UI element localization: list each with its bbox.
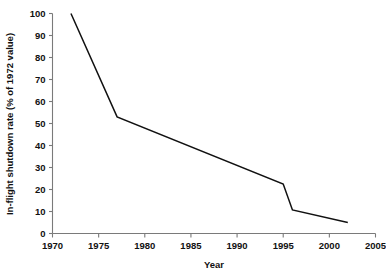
y-tick-label: 40 <box>35 140 46 151</box>
y-tick-label: 90 <box>35 30 46 41</box>
y-tick-label: 0 <box>40 228 45 239</box>
y-axis-tick-labels: 0102030405060708090100 <box>30 8 46 239</box>
x-tick-label: 1980 <box>134 240 155 251</box>
y-tick-label: 100 <box>30 8 46 19</box>
x-tick-label: 1970 <box>42 240 63 251</box>
x-axis-tick-marks <box>53 234 376 238</box>
y-axis-title: In-flight shutdown rate (% of 1972 value… <box>4 33 15 215</box>
line-chart-svg: 0102030405060708090100 In-flight shutdow… <box>0 0 386 277</box>
x-tick-label: 1985 <box>180 240 202 251</box>
y-tick-label: 80 <box>35 52 46 63</box>
y-tick-label: 20 <box>35 184 46 195</box>
y-axis-group: 0102030405060708090100 In-flight shutdow… <box>4 8 53 239</box>
x-axis-title: Year <box>204 259 224 270</box>
x-tick-label: 1995 <box>273 240 295 251</box>
y-tick-label: 60 <box>35 96 46 107</box>
data-series-group <box>71 14 348 223</box>
series-line-in-flight-shutdown-rate <box>71 14 348 223</box>
x-tick-label: 1975 <box>88 240 110 251</box>
y-tick-label: 70 <box>35 74 46 85</box>
x-tick-label: 1990 <box>227 240 248 251</box>
y-tick-label: 50 <box>35 118 46 129</box>
chart-figure: 0102030405060708090100 In-flight shutdow… <box>0 0 386 277</box>
y-tick-label: 10 <box>35 206 46 217</box>
x-tick-label: 2000 <box>319 240 340 251</box>
x-axis-group: 19701975198019851990199520002005 Year <box>42 234 386 271</box>
x-tick-label: 2005 <box>365 240 386 251</box>
y-tick-label: 30 <box>35 162 46 173</box>
x-axis-tick-labels: 19701975198019851990199520002005 <box>42 240 386 251</box>
